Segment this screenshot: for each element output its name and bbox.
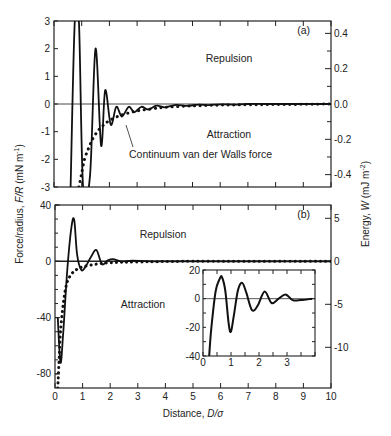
inset-x-tick-labels: 0123 [200, 357, 290, 368]
inset-x-tick-label: 1 [228, 357, 234, 368]
y-right-tick-label: -0.4 [334, 169, 352, 180]
y-tick-label: -40 [37, 312, 52, 323]
inset-left-tick-labels: 200-20-40 [186, 265, 201, 362]
inset-y-tick-label: 20 [189, 265, 201, 276]
x-tick-label: 2 [107, 391, 113, 402]
y-tick-label: -3 [41, 182, 50, 193]
y-tick-label: -1 [41, 126, 50, 137]
inset-y-tick-label: -40 [186, 351, 201, 362]
x-tick-label: 3 [135, 391, 141, 402]
x-axis-tick-labels: 012345678910 [52, 391, 337, 402]
continuum-leader-line [126, 125, 133, 147]
panel-b-right-tick-labels: 50-5-10 [334, 213, 349, 353]
y-tick-label: 0 [45, 256, 51, 267]
y-right-tick-label: 0.2 [334, 63, 348, 74]
y-tick-label: -2 [41, 154, 50, 165]
inset-x-tick-label: 2 [256, 357, 262, 368]
y-right-tick-label: -10 [334, 342, 349, 353]
y-right-tick-label: 0.0 [334, 99, 348, 110]
y-right-tick-label: 0 [334, 256, 340, 267]
inset-x-tick-label: 0 [200, 357, 206, 368]
y-tick-label: 2 [44, 43, 50, 54]
inset-y-tick-label: -20 [186, 322, 201, 333]
panel-a-left-tick-labels: 3210-1-2-3 [41, 16, 50, 193]
y-axis-title: Force/radius, F/R (mN m-1) [13, 144, 25, 264]
y-tick-label: 40 [40, 200, 52, 211]
panel-b: 400-40-80 50-5-10 012345678910 (b) Repul… [37, 200, 349, 403]
inset-x-tick-label: 3 [284, 357, 290, 368]
x-tick-label: 1 [80, 391, 86, 402]
force-distance-chart: 3210-1-2-3 0.40.20.0-0.2-0.4 (a) Repulsi… [0, 0, 391, 436]
panel-b-label: (b) [297, 208, 310, 220]
y-tick-label: -80 [37, 368, 52, 379]
panel-b-repulsion-label: Repulsion [140, 228, 187, 240]
panel-b-attraction-label: Attraction [121, 298, 166, 310]
panel-a-right-tick-labels: 0.40.20.0-0.2-0.4 [334, 28, 352, 180]
y-right-tick-label: 0.4 [334, 28, 348, 39]
x-tick-label: 10 [325, 391, 337, 402]
inset-frame [203, 270, 315, 356]
y-tick-label: 3 [44, 16, 50, 27]
x-tick-label: 8 [273, 391, 279, 402]
inset-y-tick-label: 0 [194, 293, 200, 304]
panel-a: 3210-1-2-3 0.40.20.0-0.2-0.4 (a) Repulsi… [41, 0, 352, 201]
x-tick-label: 5 [190, 391, 196, 402]
panel-a-attraction-label: Attraction [207, 128, 252, 140]
y-tick-label: 1 [44, 71, 50, 82]
panel-a-continuum-vdw-curve [79, 104, 331, 187]
x-tick-label: 4 [163, 391, 169, 402]
x-tick-label: 6 [218, 391, 224, 402]
panel-a-oscillatory-force-curve [71, 0, 331, 201]
panel-b-left-tick-labels: 400-40-80 [37, 200, 52, 380]
x-tick-label: 9 [301, 391, 307, 402]
y-right-tick-label: -0.2 [334, 134, 352, 145]
y-tick-label: 0 [44, 99, 50, 110]
panel-b-inset: 200-20-40 0123 [186, 265, 315, 369]
y-axis-right-title: Energy, W (mJ m-2) [359, 161, 371, 247]
continuum-vdw-label: Continuum van der Walls force [129, 148, 272, 160]
x-tick-label: 0 [52, 391, 58, 402]
panel-a-repulsion-label: Repulsion [206, 52, 253, 64]
y-right-tick-label: -5 [334, 299, 343, 310]
x-axis-title: Distance, D/σ [163, 408, 224, 419]
y-right-tick-label: 5 [334, 213, 340, 224]
panel-a-label: (a) [297, 24, 310, 36]
x-tick-label: 7 [245, 391, 251, 402]
